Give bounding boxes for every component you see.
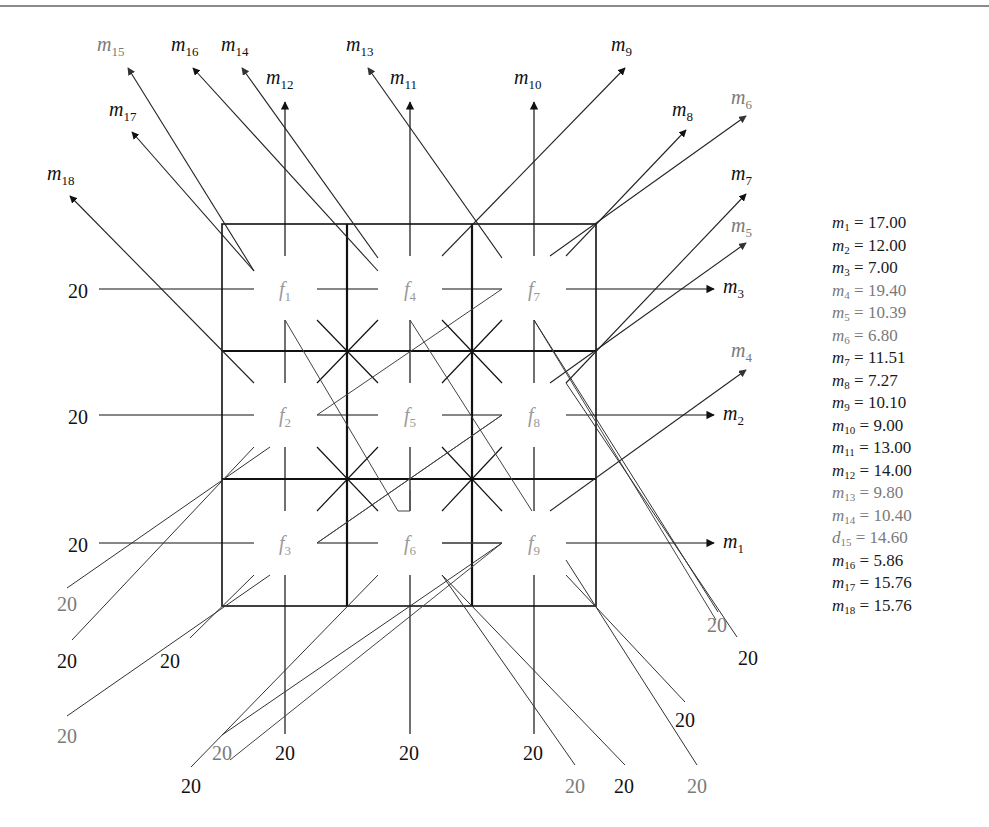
legend-value: 15.76 <box>873 573 911 592</box>
legend-variable: m <box>832 303 844 322</box>
legend-row: d15 = 14.60 <box>832 529 912 552</box>
legend-equals: = <box>850 236 868 255</box>
bottom-inflow-lines <box>285 575 534 734</box>
outflow-label-m12: m12 <box>266 66 293 92</box>
legend-row: m10 = 9.00 <box>832 417 912 440</box>
legend-variable: m <box>832 236 844 255</box>
outflow-label-m2: m2 <box>723 402 744 428</box>
legend-equals: = <box>850 281 868 300</box>
outflow-label-m11: m11 <box>390 66 417 92</box>
legend-row: m16 = 5.86 <box>832 552 912 575</box>
legend-subscript: 15 <box>841 536 852 548</box>
legend-variable: m <box>832 461 844 480</box>
legend-variable: m <box>832 551 844 570</box>
legend-value: 17.00 <box>868 213 906 232</box>
legend-row: m2 = 12.00 <box>832 237 912 260</box>
legend-row: m7 = 11.51 <box>832 349 912 372</box>
legend-value: 10.39 <box>868 303 906 322</box>
legend-row: m3 = 7.00 <box>832 259 912 282</box>
cell-label-f7: f7 <box>528 278 541 304</box>
legend-equals: = <box>855 573 873 592</box>
inflow-label: 20 <box>614 775 634 797</box>
legend-equals: = <box>850 258 868 277</box>
legend-subscript: 17 <box>844 581 855 593</box>
inflow-label: 20 <box>707 614 727 636</box>
legend-subscript: 11 <box>844 446 855 458</box>
legend-variable: m <box>832 348 844 367</box>
legend-equals: = <box>855 438 873 457</box>
outflow-label-m7: m7 <box>731 162 752 188</box>
inflow-label: 20 <box>523 742 543 764</box>
legend-subscript: 16 <box>844 559 855 571</box>
legend-variable: m <box>832 258 844 277</box>
legend-value: 19.40 <box>868 281 906 300</box>
legend-row: m5 = 10.39 <box>832 304 912 327</box>
outflow-label-m3: m3 <box>723 275 744 301</box>
inflow-label: 20 <box>68 406 88 428</box>
cell-label-f2: f2 <box>279 404 291 430</box>
legend-variable: m <box>832 281 844 300</box>
legend-equals: = <box>850 348 868 367</box>
legend-equals: = <box>855 483 873 502</box>
legend-value: 10.10 <box>868 393 906 412</box>
outflow-label-m1: m1 <box>723 530 744 556</box>
legend-equals: = <box>855 416 873 435</box>
legend-value: 14.60 <box>870 528 908 547</box>
legend-row: m6 = 6.80 <box>832 327 912 350</box>
inflow-label: 20 <box>160 650 180 672</box>
legend-value: 5.86 <box>873 551 903 570</box>
left-inflow-lines <box>99 289 254 543</box>
legend-row: m18 = 15.76 <box>832 597 912 620</box>
legend-value: 13.00 <box>873 438 911 457</box>
legend-equals: = <box>850 213 868 232</box>
outflow-label-m10: m10 <box>514 66 541 92</box>
inflow-label: 20 <box>57 725 77 747</box>
legend-value: 15.76 <box>873 596 911 615</box>
outflow-label-m15: m15 <box>97 33 124 59</box>
cell-label-f4: f4 <box>404 278 417 304</box>
legend-row: m1 = 17.00 <box>832 214 912 237</box>
legend-value: 7.00 <box>868 258 898 277</box>
legend-value: 7.27 <box>868 371 898 390</box>
inflow-label: 20 <box>275 742 295 764</box>
outflow-labels: m1m2m3m4m5m6m7m8m9m10m11m12m13m14m15m16m… <box>47 33 752 556</box>
outflow-label-m16: m16 <box>171 33 199 59</box>
legend-subscript: 12 <box>844 469 855 481</box>
inflow-label: 20 <box>399 742 419 764</box>
legend-value: 12.00 <box>868 236 906 255</box>
legend-value: 10.40 <box>873 506 911 525</box>
legend-variable: m <box>832 596 844 615</box>
legend-equals: = <box>855 461 873 480</box>
legend-row: m14 = 10.40 <box>832 507 912 530</box>
legend-row: m9 = 10.10 <box>832 394 912 417</box>
legend-row: m4 = 19.40 <box>832 282 912 305</box>
legend-row: m17 = 15.76 <box>832 574 912 597</box>
legend-variable: m <box>832 393 844 412</box>
legend-equals: = <box>855 506 873 525</box>
legend-equals: = <box>852 528 870 547</box>
outflow-label-m14: m14 <box>221 33 249 59</box>
legend-variable: m <box>832 371 844 390</box>
cell-label-f1: f1 <box>279 278 291 304</box>
cell-label-f9: f9 <box>528 532 540 558</box>
legend-subscript: 18 <box>844 604 855 616</box>
legend-row: m11 = 13.00 <box>832 439 912 462</box>
cell-label-f6: f6 <box>404 532 417 558</box>
legend-value: 6.80 <box>868 326 898 345</box>
legend-variable: m <box>832 506 844 525</box>
legend-value: 9.00 <box>873 416 903 435</box>
inflow-label: 20 <box>212 742 232 764</box>
inflow-label: 20 <box>181 775 201 797</box>
legend-equals: = <box>855 596 873 615</box>
inflow-label: 20 <box>68 280 88 302</box>
legend-equals: = <box>850 393 868 412</box>
outflow-label-m17: m17 <box>109 98 137 124</box>
legend-variable: d <box>832 528 841 547</box>
legend-subscript: 10 <box>844 424 855 436</box>
legend-equals: = <box>850 326 868 345</box>
inflow-label: 20 <box>738 647 758 669</box>
cell-label-f8: f8 <box>528 404 540 430</box>
legend-value: 11.51 <box>868 348 906 367</box>
outflow-label-m9: m9 <box>611 33 632 59</box>
legend-row: m8 = 7.27 <box>832 372 912 395</box>
